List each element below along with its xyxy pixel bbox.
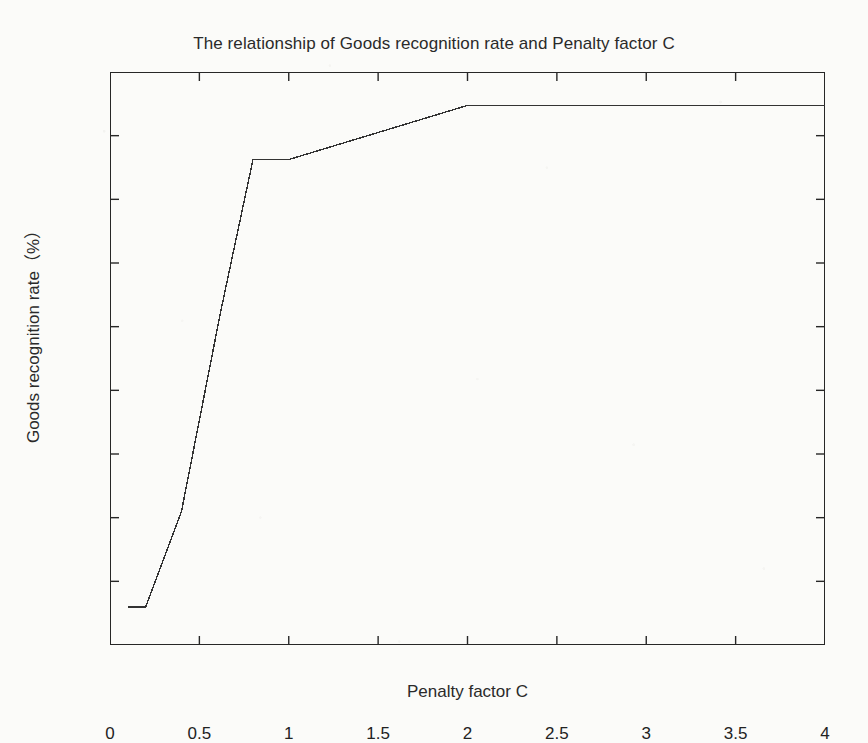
x-axis-label: Penalty factor C — [110, 682, 825, 702]
y-axis-label: Goods recognition rate（%） — [19, 153, 44, 513]
plot-area: 7678808284868890929400.511.522.533.54 — [110, 72, 825, 645]
x-tick-label: 0 — [80, 724, 140, 743]
x-tick-label: 3 — [616, 724, 676, 743]
data-series-layer — [110, 72, 825, 645]
x-tick-label: 4 — [795, 724, 855, 743]
x-tick-label: 1.5 — [348, 724, 408, 743]
x-tick-label: 0.5 — [169, 724, 229, 743]
x-tick-label: 1 — [259, 724, 319, 743]
line-series-goods-recognition-rate — [128, 105, 825, 606]
x-tick-label: 3.5 — [706, 724, 766, 743]
chart-title: The relationship of Goods recognition ra… — [0, 34, 868, 54]
x-tick-label: 2 — [438, 724, 498, 743]
x-tick-label: 2.5 — [527, 724, 587, 743]
